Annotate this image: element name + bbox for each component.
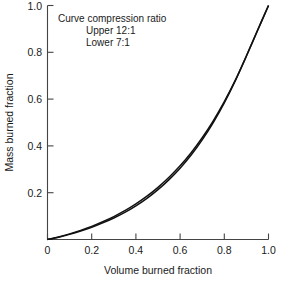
x-tick-label: 0 (45, 244, 51, 256)
y-axis-ticks (48, 6, 54, 193)
y-axis-title: Mass burned fraction (3, 73, 15, 171)
y-tick-label: 1.0 (27, 0, 42, 12)
annotation-line-upper: Upper 12:1 (86, 25, 136, 36)
x-tick-label: 0.4 (129, 244, 144, 256)
x-axis-title: Volume burned fraction (104, 264, 212, 276)
annotation-line-lower: Lower 7:1 (86, 37, 130, 48)
chart-plot-area: 0 0.2 0.4 0.6 0.8 1.0 0.2 0.4 0.6 0.8 1.… (0, 0, 292, 281)
chart-figure: 0 0.2 0.4 0.6 0.8 1.0 0.2 0.4 0.6 0.8 1.… (0, 0, 292, 281)
x-tick-label: 0.8 (217, 244, 232, 256)
x-axis-ticks (48, 234, 269, 240)
x-tick-label: 0.2 (84, 244, 99, 256)
x-tick-label: 0.6 (173, 244, 188, 256)
y-tick-label: 0.8 (27, 46, 42, 58)
curve-lower-7to1 (48, 6, 269, 240)
axis-frame (48, 6, 269, 240)
x-axis-tick-labels: 0 0.2 0.4 0.6 0.8 1.0 (45, 244, 276, 256)
annotation-block: Curve compression ratio Upper 12:1 Lower… (58, 13, 167, 48)
y-tick-label: 0.2 (27, 187, 42, 199)
y-tick-label: 0.6 (27, 93, 42, 105)
annotation-line-title: Curve compression ratio (58, 13, 167, 24)
curve-upper-12to1 (48, 6, 269, 240)
x-tick-label: 1.0 (261, 244, 276, 256)
data-curves (48, 6, 269, 240)
y-axis-tick-labels: 0.2 0.4 0.6 0.8 1.0 (27, 0, 42, 198)
y-tick-label: 0.4 (27, 140, 42, 152)
